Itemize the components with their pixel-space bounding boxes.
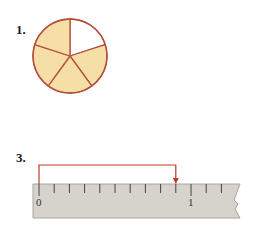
measure-arrow — [39, 165, 176, 184]
ruler-label-0: 0 — [36, 196, 42, 208]
fraction-circle — [33, 19, 107, 93]
ruler: 01 — [33, 165, 240, 218]
ruler-body — [33, 184, 240, 218]
figures: 01 — [0, 0, 273, 247]
ruler-label-1: 1 — [188, 196, 194, 208]
arrow-head-icon — [173, 178, 179, 184]
